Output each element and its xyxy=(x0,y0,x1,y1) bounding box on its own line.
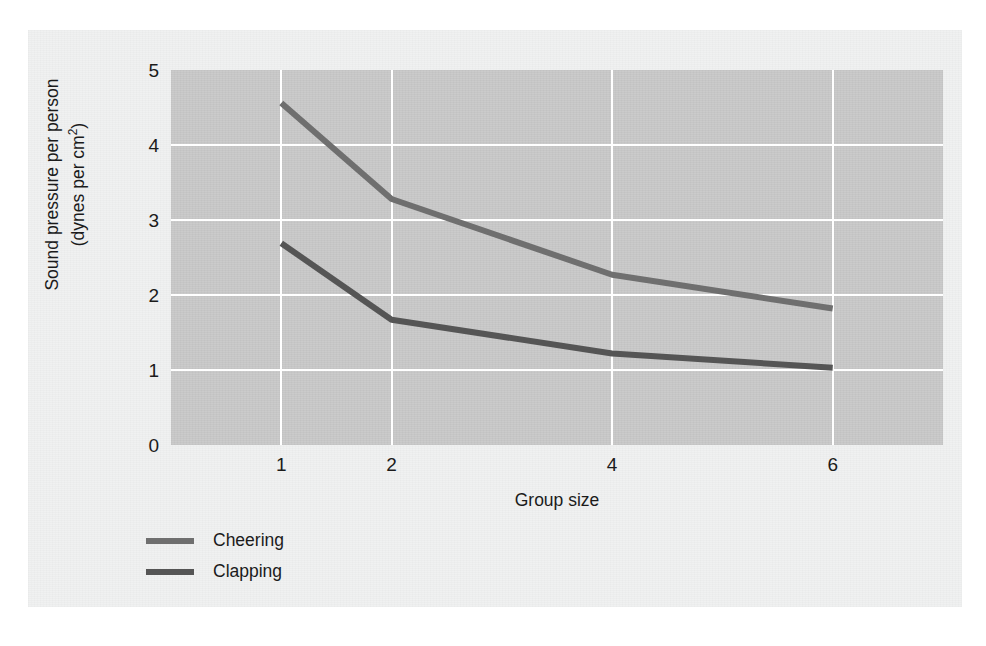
figure-card: 543210 1246 Sound pressure per person (d… xyxy=(28,30,962,607)
series-line-cheering xyxy=(281,103,832,309)
y-axis-label-line2: (dynes per cm2) xyxy=(65,5,90,365)
legend-swatch-clapping xyxy=(146,569,194,575)
y-tick-label: 4 xyxy=(119,136,159,155)
legend-label: Cheering xyxy=(213,532,284,550)
y-tick-label: 2 xyxy=(119,286,159,305)
x-tick-label: 6 xyxy=(813,455,853,474)
legend-label: Clapping xyxy=(213,563,282,581)
y-axis-label: Sound pressure per person (dynes per cm2… xyxy=(41,5,90,365)
y-axis-label-line1: Sound pressure per person xyxy=(42,79,62,291)
y-axis-ticks: 543210 xyxy=(111,70,159,445)
plot-frame xyxy=(171,70,943,445)
y-tick-label: 1 xyxy=(119,361,159,380)
x-tick-label: 2 xyxy=(372,455,412,474)
legend-item[interactable]: Clapping xyxy=(146,556,284,587)
y-tick-label: 5 xyxy=(119,61,159,80)
series-lines xyxy=(171,70,943,445)
legend-swatch-cheering xyxy=(146,538,194,544)
y-tick-label: 3 xyxy=(119,211,159,230)
legend: CheeringClapping xyxy=(146,525,284,587)
x-tick-label: 4 xyxy=(592,455,632,474)
series-line-clapping xyxy=(281,243,832,368)
x-axis-ticks: 1246 xyxy=(171,455,943,485)
x-tick-label: 1 xyxy=(261,455,301,474)
y-tick-label: 0 xyxy=(119,436,159,455)
x-axis-label: Group size xyxy=(171,490,943,511)
legend-item[interactable]: Cheering xyxy=(146,525,284,556)
